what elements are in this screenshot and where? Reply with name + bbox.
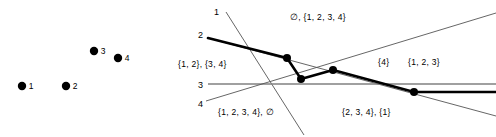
face-partition-label-bottom-right: {2, 3, 4}, {1}	[342, 108, 391, 117]
envelope-vertex-1	[283, 54, 291, 62]
envelope-vertex-3	[329, 66, 337, 74]
line-4	[206, 13, 496, 101]
point-label-4: 4	[125, 54, 130, 63]
face-partition-label-left: {1, 2}, {3, 4}	[178, 60, 227, 69]
point-marker-4	[114, 54, 122, 62]
line-number-label-2: 2	[198, 31, 203, 40]
line-number-label-1: 1	[214, 8, 219, 17]
dual-line-arrangement-panel: 1234 ∅, {1, 2, 3, 4}{1, 2}, {3, 4}{4}{1,…	[170, 0, 496, 137]
face-partition-label-top: ∅, {1, 2, 3, 4}	[290, 13, 346, 22]
envelope-vertex-2	[297, 75, 305, 83]
envelope-vertex-4	[410, 88, 418, 96]
line-number-label-4: 4	[198, 100, 203, 109]
point-set-canvas	[0, 0, 170, 137]
line-number-label-3: 3	[198, 81, 203, 90]
point-label-3: 3	[101, 47, 106, 56]
point-label-1: 1	[29, 82, 34, 91]
point-set-panel: 1234	[0, 0, 170, 137]
face-partition-label-right-large: {1, 2, 3}	[408, 58, 440, 67]
point-marker-1	[18, 82, 26, 90]
face-partition-label-bottom-left: {1, 2, 3, 4}, ∅	[218, 108, 274, 117]
face-partition-label-right-small: {4}	[378, 58, 389, 67]
point-marker-3	[90, 47, 98, 55]
point-marker-2	[62, 82, 70, 90]
figure-root: 1234 1234 ∅, {1, 2, 3, 4}{1, 2}, {3, 4}{…	[0, 0, 496, 137]
point-label-2: 2	[73, 82, 78, 91]
